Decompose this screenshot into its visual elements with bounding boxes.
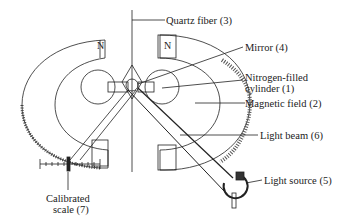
pole-label-right-n: N	[164, 40, 171, 51]
label-scale-line1: Calibrated	[46, 193, 90, 204]
label-light-source: Light source (5)	[264, 175, 332, 186]
light-source	[224, 172, 262, 208]
apparatus-diagram: N N Quartz fiber (3) Mirror (4) Nitrogen…	[0, 0, 357, 224]
label-nitrogen-line2: cylinder (1)	[245, 83, 294, 94]
label-nitrogen-line1: Nitrogen-filled	[245, 72, 308, 83]
left-cylinder	[81, 70, 115, 104]
label-scale-line2: scale (7)	[53, 204, 89, 215]
label-mirror: Mirror (4)	[245, 42, 288, 53]
label-magnetic-field: Magnetic field (2)	[245, 98, 321, 109]
diagram-drawing	[0, 0, 357, 224]
calibrated-scale	[40, 157, 100, 190]
pole-label-left-n: N	[97, 40, 104, 51]
label-light-beam: Light beam (6)	[260, 130, 323, 141]
label-quartz-fiber: Quartz fiber (3)	[166, 15, 232, 26]
